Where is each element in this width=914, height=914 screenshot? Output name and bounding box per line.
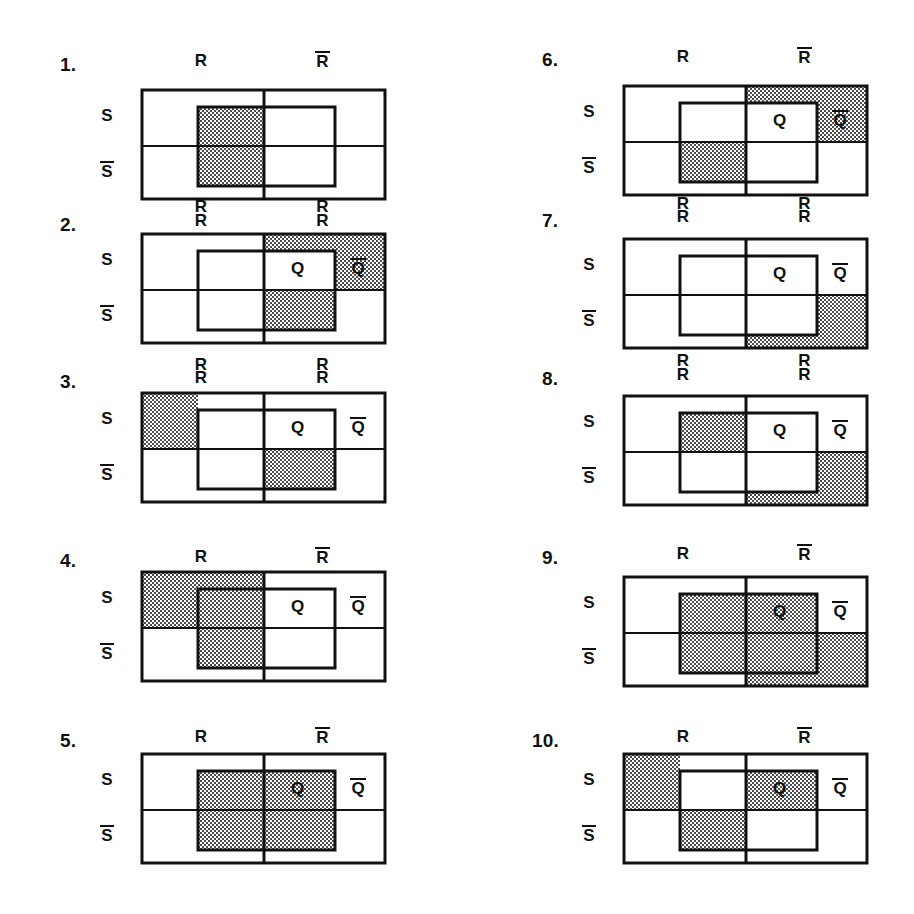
column-head-r-bar: R: [785, 728, 825, 746]
overline-wrap: S: [583, 311, 594, 329]
venn-map: [140, 232, 387, 345]
overline-wrap: Q: [351, 259, 364, 277]
overline-wrap: S: [101, 644, 112, 662]
q-label: Q: [284, 598, 312, 615]
bottom-head-r-right: R: [303, 198, 343, 215]
venn-map: [622, 394, 869, 507]
q-bar-label: Q: [826, 421, 854, 439]
overline-wrap: R: [798, 728, 810, 746]
overline-wrap: S: [583, 158, 594, 176]
q-bar-label: Q: [826, 779, 854, 797]
column-head-r: R: [181, 728, 221, 745]
panel-index: 1.: [60, 55, 76, 74]
q-bar-label: Q: [344, 597, 372, 615]
bottom-head-r-left: R: [181, 198, 221, 215]
overline-wrap: R: [316, 548, 328, 566]
overline-wrap: Q: [833, 779, 846, 797]
row-label-s-bar: S: [92, 644, 122, 662]
row-label-s: S: [92, 771, 122, 788]
overline-wrap: S: [583, 826, 594, 844]
overline-wrap: S: [101, 826, 112, 844]
column-head-r-bar: R: [303, 728, 343, 746]
overline-wrap: S: [583, 649, 594, 667]
q-label: Q: [284, 419, 312, 436]
q-label: Q: [766, 603, 794, 620]
q-bar-label: Q: [826, 264, 854, 282]
bottom-head-r-left: R: [663, 195, 703, 212]
overline-wrap: Q: [833, 602, 846, 620]
row-label-s: S: [574, 256, 604, 273]
row-label-s: S: [574, 771, 604, 788]
row-label-s: S: [574, 594, 604, 611]
column-head-r: R: [663, 728, 703, 745]
q-bar-label: Q: [344, 418, 372, 436]
bottom-head-r-left: R: [663, 352, 703, 369]
q-bar-label: Q: [344, 259, 372, 277]
q-label: Q: [766, 780, 794, 797]
column-head-r: R: [663, 48, 703, 65]
row-label-s: S: [574, 103, 604, 120]
venn-map: [622, 752, 869, 865]
row-label-s: S: [92, 251, 122, 268]
row-label-s-bar: S: [574, 826, 604, 844]
overline-wrap: R: [316, 728, 328, 746]
row-label-s-bar: S: [92, 465, 122, 483]
overline-wrap: Q: [833, 264, 846, 282]
overline-wrap: S: [101, 162, 112, 180]
q-label: Q: [284, 780, 312, 797]
diagram-sheet: 1.RRSS2.RRSSQQ3.RRSSQQ4.RRSSQQ5.RRSSQQ6.…: [0, 0, 914, 914]
overline-wrap: S: [101, 306, 112, 324]
q-label: Q: [766, 422, 794, 439]
column-head-r-bar: R: [303, 52, 343, 70]
column-head-r-bar: R: [785, 48, 825, 66]
venn-map: [140, 391, 387, 504]
overline-wrap: Q: [351, 779, 364, 797]
row-label-s-bar: S: [574, 468, 604, 486]
venn-map: [140, 88, 387, 201]
venn-map: [622, 84, 869, 197]
row-label-s-bar: S: [92, 162, 122, 180]
q-label: Q: [766, 265, 794, 282]
overline-wrap: Q: [833, 111, 846, 129]
venn-map: [140, 752, 387, 865]
row-label-s: S: [92, 107, 122, 124]
overline-wrap: R: [316, 52, 328, 70]
panel-index: 7.: [542, 211, 558, 230]
overline-wrap: Q: [833, 421, 846, 439]
row-label-s-bar: S: [92, 306, 122, 324]
row-label-s-bar: S: [574, 158, 604, 176]
row-label-s-bar: S: [92, 826, 122, 844]
venn-map: [140, 570, 387, 683]
panel-index: 6.: [542, 50, 558, 69]
overline-wrap: S: [101, 465, 112, 483]
q-bar-label: Q: [826, 111, 854, 129]
venn-map: [622, 575, 869, 688]
bottom-head-r-right: R: [785, 352, 825, 369]
q-bar-label: Q: [826, 602, 854, 620]
overline-wrap: R: [798, 545, 810, 563]
panel-index: 10.: [532, 731, 559, 750]
q-label: Q: [766, 112, 794, 129]
overline-wrap: Q: [351, 597, 364, 615]
panel-index: 2.: [60, 215, 76, 234]
q-bar-label: Q: [344, 779, 372, 797]
panel-index: 8.: [542, 369, 558, 388]
overline-wrap: Q: [351, 418, 364, 436]
column-head-r: R: [181, 548, 221, 565]
column-head-r: R: [181, 52, 221, 69]
column-head-r: R: [663, 545, 703, 562]
overline-wrap: R: [798, 48, 810, 66]
row-label-s-bar: S: [574, 649, 604, 667]
row-label-s: S: [92, 410, 122, 427]
q-label: Q: [284, 260, 312, 277]
venn-map: [622, 237, 869, 350]
panel-index: 4.: [60, 551, 76, 570]
overline-wrap: S: [583, 468, 594, 486]
row-label-s: S: [574, 413, 604, 430]
bottom-head-r-right: R: [785, 195, 825, 212]
row-label-s: S: [92, 589, 122, 606]
panel-index: 3.: [60, 372, 76, 391]
panel-index: 9.: [542, 548, 558, 567]
panel-index: 5.: [60, 731, 76, 750]
column-head-r-bar: R: [785, 545, 825, 563]
